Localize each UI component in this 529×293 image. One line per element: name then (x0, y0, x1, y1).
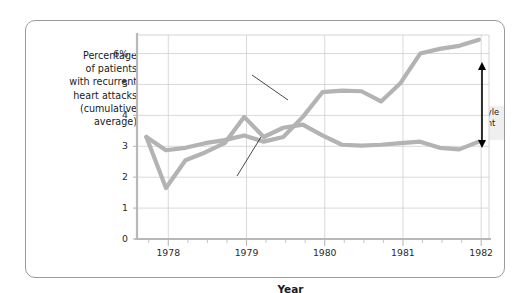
x-tick-label: 1980 (302, 247, 348, 258)
x-axis-title: Year (26, 283, 529, 293)
control-series-label: Control patients (229, 87, 310, 97)
y-tick-label: 4 (104, 109, 128, 120)
y-axis-title-line-2: of patients (32, 62, 137, 75)
annotation-line-3: heart attacks (420, 128, 502, 139)
x-tick-label: 1981 (380, 247, 426, 258)
annotation-line-2: reduced recurrent (420, 118, 502, 129)
y-axis-title-line-4: heart attacks (32, 89, 137, 102)
x-tick-label: 1982 (458, 247, 504, 258)
y-tick-label: 2 (104, 171, 128, 182)
y-tick-label: 5 (104, 78, 128, 89)
annotation-line-1: Modifying life-style (420, 107, 502, 118)
y-tick-label: 6% (104, 48, 128, 59)
y-tick-label: 1 (104, 202, 128, 213)
lifestyle-benefit-annotation: Modifying life-style reduced recurrent h… (418, 106, 504, 140)
y-tick-label: 3 (104, 140, 128, 151)
x-tick-label: 1979 (224, 247, 270, 258)
lifestyle-series-label: Life-style modification patients (248, 199, 403, 209)
y-tick-label: 0 (104, 233, 128, 244)
x-tick-label: 1978 (145, 247, 191, 258)
chart-frame: Percentage of patients with recurrent he… (25, 20, 505, 278)
